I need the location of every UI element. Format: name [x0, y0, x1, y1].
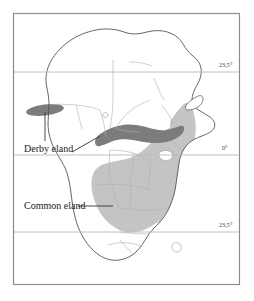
latitude-label-tropic-of-cancer: 23,5° — [219, 62, 232, 68]
map-label-common-eland: Common eland — [24, 200, 85, 211]
latitude-label-equator: 0° — [222, 145, 228, 151]
map-label-derby-eland: Derby eland — [24, 143, 73, 154]
latitude-label-tropic-of-capricorn: 23,5° — [219, 222, 232, 228]
